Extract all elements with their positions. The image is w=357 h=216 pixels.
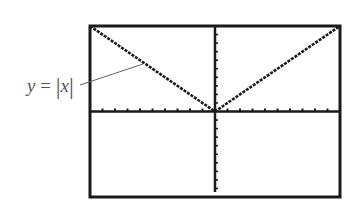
equation-equals: = [35,75,55,96]
equation-label: y = |x| [27,73,74,100]
abs-bar-right: | [69,73,74,99]
calculator-graph-figure: y = |x| [0,0,357,216]
equation-rhs: x [60,75,68,96]
graph-screen [0,0,357,216]
